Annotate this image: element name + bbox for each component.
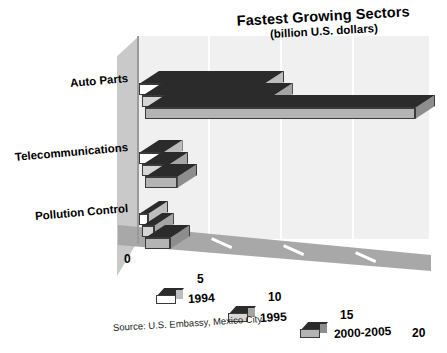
- xtick-5: 5: [197, 272, 204, 286]
- bar-pollution-control-2000-2005: [0, 0, 447, 353]
- chart-figure: Auto Parts Telecommunications Pollution …: [0, 0, 447, 353]
- xtick-15: 15: [340, 308, 353, 322]
- legend-swatch-side-1994: [176, 290, 183, 299]
- legend-label-2000-2005: 2000-2005: [334, 324, 392, 341]
- xtick-10: 10: [268, 290, 281, 304]
- chart-plot-area: [0, 0, 447, 353]
- xtick-20: 20: [412, 326, 425, 340]
- bar-front-face: [145, 238, 170, 249]
- legend-swatch-side-2000-2005: [320, 324, 327, 333]
- legend-label-1995: 1995: [260, 310, 287, 325]
- legend-swatch-front-2000-2005: [300, 329, 320, 338]
- xtick-0: 0: [124, 252, 131, 266]
- legend-label-1994: 1994: [188, 291, 215, 306]
- legend-swatch-1994: [156, 288, 182, 302]
- legend-swatch-front-1994: [156, 295, 176, 304]
- bar-top-edge: [145, 237, 170, 238]
- legend-swatch-2000-2005: [300, 322, 326, 336]
